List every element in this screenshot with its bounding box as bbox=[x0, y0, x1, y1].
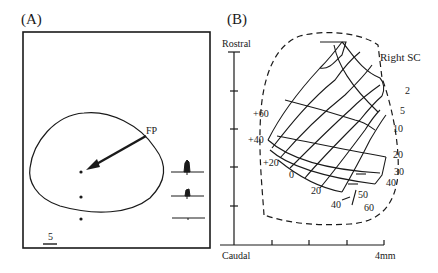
elev-label-0: 0 bbox=[289, 170, 294, 180]
elev-label-20: 20 bbox=[311, 186, 321, 196]
iso-elev-m40 bbox=[320, 110, 380, 188]
elev-label-40: 40 bbox=[331, 200, 341, 210]
ecc-label-20: 20 bbox=[393, 150, 403, 160]
ecc-label-40: 40 bbox=[386, 178, 396, 188]
scale-bar-label: 5 bbox=[48, 232, 53, 242]
figure: (A) FP 5 (B) Rostral Caudal 4mm Right SC… bbox=[0, 0, 438, 273]
fp-arrow-shaft bbox=[93, 136, 146, 166]
ecc-label-5: 5 bbox=[400, 106, 405, 116]
ecc-label-30: 30 bbox=[394, 167, 404, 177]
grid-right-edge bbox=[375, 157, 386, 184]
rostral-label: Rostral bbox=[222, 39, 251, 49]
response-trace-3 bbox=[172, 218, 205, 220]
elev-label-plus40: +40 bbox=[248, 135, 264, 145]
iso-ecc-2 bbox=[342, 42, 384, 96]
iso-elev-20 bbox=[280, 65, 372, 158]
iso-ecc-40 bbox=[270, 150, 375, 184]
ecc-label-2: 2 bbox=[405, 86, 410, 96]
response-trace-1 bbox=[171, 160, 204, 175]
ecc-label-10: 10 bbox=[393, 124, 403, 134]
scale-4mm-label: 4mm bbox=[375, 251, 396, 261]
figure-drawing bbox=[0, 0, 438, 273]
fp-arrow-head bbox=[86, 159, 100, 170]
stimulus-dot-1 bbox=[79, 170, 82, 173]
retinotopic-grid bbox=[268, 42, 386, 205]
elev-label-plus60: +60 bbox=[253, 109, 269, 119]
response-trace-2 bbox=[171, 189, 204, 199]
caudal-label: Caudal bbox=[222, 251, 250, 261]
iso-ecc-20 bbox=[277, 136, 386, 157]
panel-b-label: (B) bbox=[227, 12, 247, 27]
stimulus-dot-3 bbox=[79, 217, 82, 220]
iso-elev-0 bbox=[290, 85, 380, 168]
fp-label: FP bbox=[146, 126, 157, 136]
panel-b-axes bbox=[220, 52, 384, 245]
elev-label-60: 60 bbox=[364, 203, 374, 213]
panel-a-label: (A) bbox=[21, 12, 42, 27]
elev-label-plus20: +20 bbox=[263, 158, 279, 168]
ecc-label-50: 50 bbox=[358, 190, 368, 200]
right-sc-label: Right SC bbox=[380, 52, 421, 63]
stimulus-dot-2 bbox=[79, 195, 82, 198]
panel-a-frame bbox=[23, 32, 210, 248]
iso-elev-60 bbox=[268, 42, 342, 140]
